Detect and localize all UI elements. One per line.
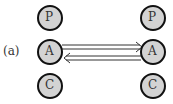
node-right-C-label: C <box>148 78 157 92</box>
node-left-C-label: C <box>45 78 54 92</box>
arrow-left-to-right <box>62 42 142 52</box>
node-left-A-label: A <box>45 44 54 58</box>
arrow-right-to-left <box>64 53 141 63</box>
node-left-P-label: P <box>45 10 53 24</box>
node-right-A-label: A <box>148 44 157 58</box>
node-right-P-label: P <box>148 10 156 24</box>
